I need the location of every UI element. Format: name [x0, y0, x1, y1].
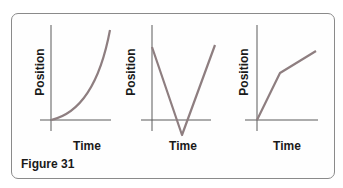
x-axis-label: Time — [73, 139, 101, 153]
position-curve — [51, 30, 110, 120]
x-axis-label: Time — [273, 139, 301, 153]
position-line — [152, 45, 215, 135]
graph-2: Position Time — [124, 25, 215, 153]
graph-1: Position Time — [33, 25, 111, 153]
y-axis-label: Position — [33, 48, 47, 95]
x-axis-label: Time — [169, 139, 197, 153]
y-axis-label: Position — [124, 48, 138, 95]
figure-caption: Figure 31 — [21, 157, 74, 171]
graph-3: Position Time — [237, 25, 318, 153]
position-line — [257, 51, 316, 120]
y-axis-label: Position — [237, 48, 251, 95]
